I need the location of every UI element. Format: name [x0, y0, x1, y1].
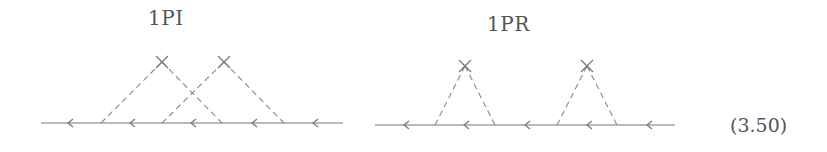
scalar-propagator	[224, 62, 284, 123]
scalar-propagator	[435, 66, 465, 125]
feynman-diagrams	[0, 0, 827, 152]
scalar-propagator	[465, 66, 495, 125]
scalar-propagator	[101, 62, 162, 123]
equation-number: (3.50)	[730, 114, 787, 136]
scalar-propagator	[587, 66, 617, 125]
scalar-propagator	[557, 66, 587, 125]
